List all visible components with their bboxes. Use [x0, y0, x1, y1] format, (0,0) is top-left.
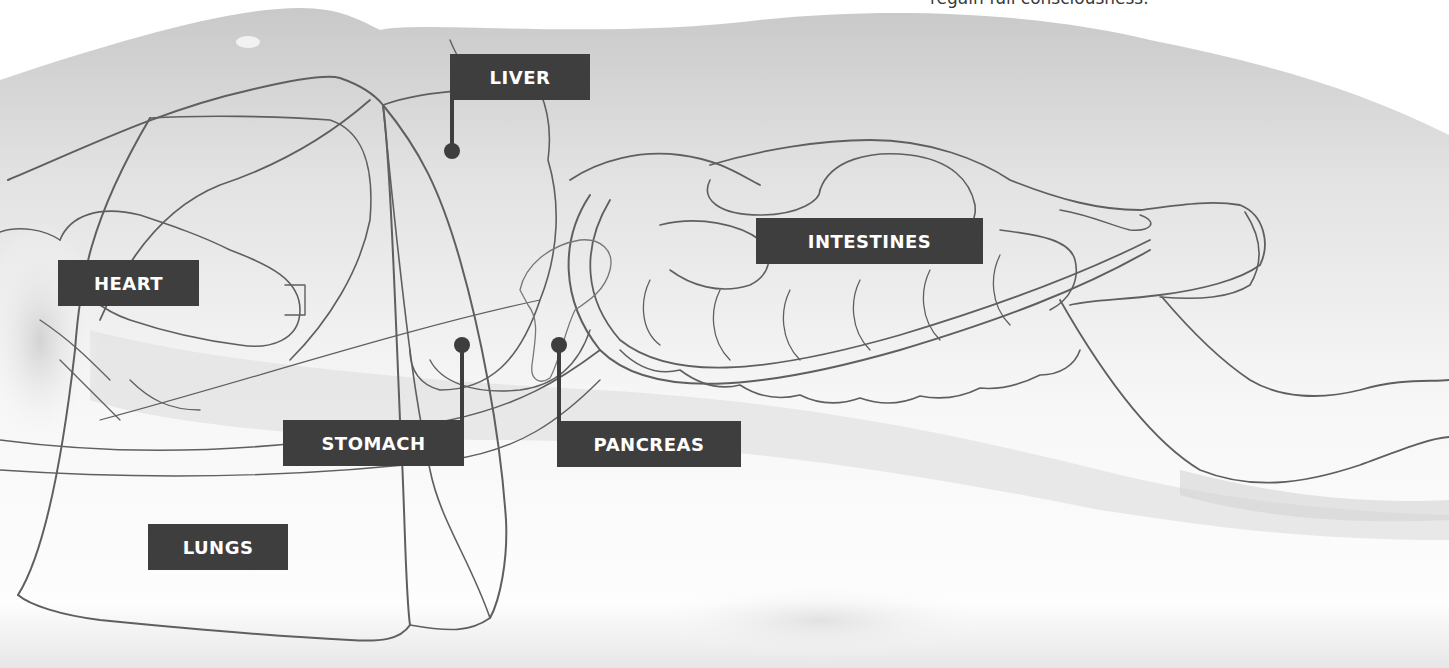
- label-pancreas: PANCREAS: [557, 421, 741, 467]
- pointer-dot-pancreas: [551, 337, 567, 353]
- leader-line-pancreas: [557, 345, 561, 425]
- leader-line-stomach: [460, 345, 464, 423]
- label-stomach-text: STOMACH: [321, 433, 425, 454]
- label-liver-text: LIVER: [490, 67, 551, 88]
- label-heart: HEART: [58, 260, 199, 306]
- label-lungs-text: LUNGS: [183, 537, 254, 558]
- label-stomach: STOMACH: [283, 420, 464, 466]
- label-pancreas-text: PANCREAS: [594, 434, 705, 455]
- label-heart-text: HEART: [94, 273, 163, 294]
- label-intestines-text: INTESTINES: [808, 231, 932, 252]
- label-liver: LIVER: [450, 54, 590, 100]
- pointer-dot-stomach: [454, 337, 470, 353]
- label-intestines: INTESTINES: [756, 218, 983, 264]
- pointer-dot-liver: [444, 143, 460, 159]
- label-lungs: LUNGS: [148, 524, 288, 570]
